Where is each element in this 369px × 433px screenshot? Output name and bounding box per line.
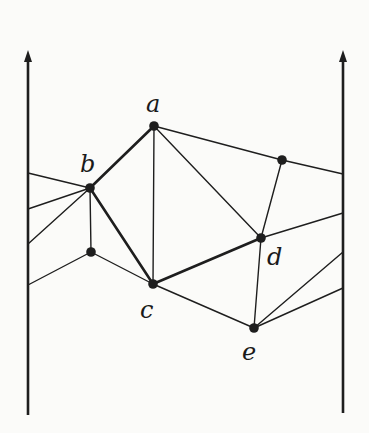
edge-p-R1 (282, 160, 343, 174)
edge-c-e (153, 284, 254, 328)
label-e: e (242, 338, 256, 366)
edge-a-d (154, 126, 261, 238)
label-a: a (146, 90, 160, 118)
vertex-p (277, 155, 287, 165)
label-c: c (140, 296, 153, 324)
edge-q-L4 (28, 252, 91, 285)
diagram-canvas: abcde (0, 0, 369, 433)
vertex-a (149, 121, 159, 131)
edges (28, 126, 343, 328)
edge-a-p (154, 126, 282, 160)
walls (24, 50, 347, 415)
label-d: d (267, 243, 282, 271)
edge-a-c (153, 126, 154, 284)
arrow-up-icon (339, 50, 347, 62)
edge-p-d (261, 160, 282, 238)
edge-b-L3 (28, 188, 90, 244)
vertex-c (148, 279, 158, 289)
label-b: b (80, 150, 95, 178)
edge-b-c (90, 188, 153, 284)
vertex-q (86, 247, 96, 257)
arrow-up-icon (24, 50, 32, 62)
edge-a-b (90, 126, 154, 188)
edge-c-d (153, 238, 261, 284)
edge-e-R4 (254, 288, 343, 328)
vertex-e (249, 323, 259, 333)
edge-d-R2 (261, 213, 343, 238)
edge-b-L2 (28, 188, 90, 209)
vertex-b (85, 183, 95, 193)
vertex-d (256, 233, 266, 243)
edge-d-e (254, 238, 261, 328)
subdivision-diagram: abcde (0, 0, 369, 433)
edge-b-q (90, 188, 91, 252)
